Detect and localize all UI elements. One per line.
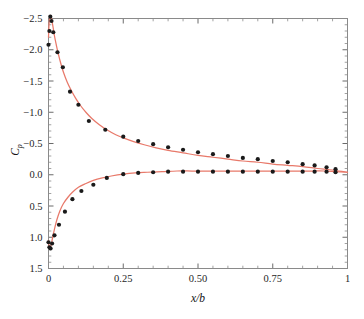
data-point: [241, 170, 245, 174]
data-point: [196, 170, 200, 174]
data-point: [211, 152, 215, 156]
data-point: [68, 90, 72, 94]
data-point: [48, 246, 52, 250]
data-point: [313, 170, 317, 174]
y-tick-label-4: −0.5: [23, 138, 42, 149]
y-tick-label-2: −1.5: [23, 76, 42, 87]
y-axis-title-subscript: p: [15, 144, 24, 149]
data-point: [50, 241, 54, 245]
data-point: [121, 172, 125, 176]
data-point: [49, 19, 53, 23]
data-point: [211, 170, 215, 174]
y-tick-label-7: 1.0: [29, 232, 42, 243]
data-point: [256, 157, 260, 161]
data-point: [136, 139, 140, 143]
data-point: [313, 163, 317, 167]
data-point: [121, 135, 125, 139]
x-tick-label-0: 0: [46, 273, 51, 284]
data-point: [46, 43, 50, 47]
data-point: [226, 170, 230, 174]
data-point: [286, 160, 290, 164]
data-point: [46, 240, 50, 244]
y-tick-label-5: 0.0: [29, 169, 42, 180]
x-tick-label-1: 0.25: [114, 273, 132, 284]
data-point: [151, 170, 155, 174]
data-point: [181, 170, 185, 174]
data-point: [103, 128, 107, 132]
data-point: [324, 165, 328, 169]
data-point: [241, 156, 245, 160]
data-point: [105, 176, 109, 180]
data-point: [166, 170, 170, 174]
data-point: [324, 170, 328, 174]
data-point: [286, 170, 290, 174]
x-tick-label-2: 0.50: [189, 273, 207, 284]
data-point: [91, 183, 95, 187]
data-point: [52, 233, 56, 237]
data-point: [151, 142, 155, 146]
x-tick-label-3: 0.75: [264, 273, 282, 284]
chart-background: [0, 0, 364, 319]
y-tick-label-8: 1.5: [29, 263, 42, 274]
data-point: [47, 29, 51, 33]
data-point: [55, 50, 59, 54]
data-point: [87, 119, 91, 123]
pressure-coefficient-chart: 00.250.500.751 −2.5−2.0−1.5−1.0−0.50.00.…: [0, 0, 364, 319]
x-axis-title-text: x/b: [190, 292, 205, 304]
data-point: [256, 170, 260, 174]
data-point: [61, 65, 65, 69]
data-point: [70, 197, 74, 201]
data-point: [63, 210, 67, 214]
y-tick-label-6: 0.5: [29, 201, 42, 212]
data-point: [48, 15, 52, 19]
y-tick-label-3: −1.0: [23, 107, 42, 118]
data-point: [271, 170, 275, 174]
chart-svg: 00.250.500.751 −2.5−2.0−1.5−1.0−0.50.00.…: [0, 0, 364, 319]
data-point: [57, 223, 61, 227]
data-point: [271, 159, 275, 163]
data-point: [196, 150, 200, 154]
data-point: [79, 189, 83, 193]
y-tick-label-1: −2.0: [23, 44, 42, 55]
data-point: [301, 170, 305, 174]
x-tick-label-4: 1: [345, 273, 350, 284]
data-point: [136, 171, 140, 175]
data-point: [76, 103, 80, 107]
x-axis-title: x/b: [190, 292, 205, 304]
data-point: [166, 145, 170, 149]
y-tick-label-0: −2.5: [23, 13, 42, 24]
data-point: [181, 148, 185, 152]
data-point: [301, 162, 305, 166]
data-point: [333, 170, 337, 174]
data-point: [51, 30, 55, 34]
data-point: [226, 154, 230, 158]
